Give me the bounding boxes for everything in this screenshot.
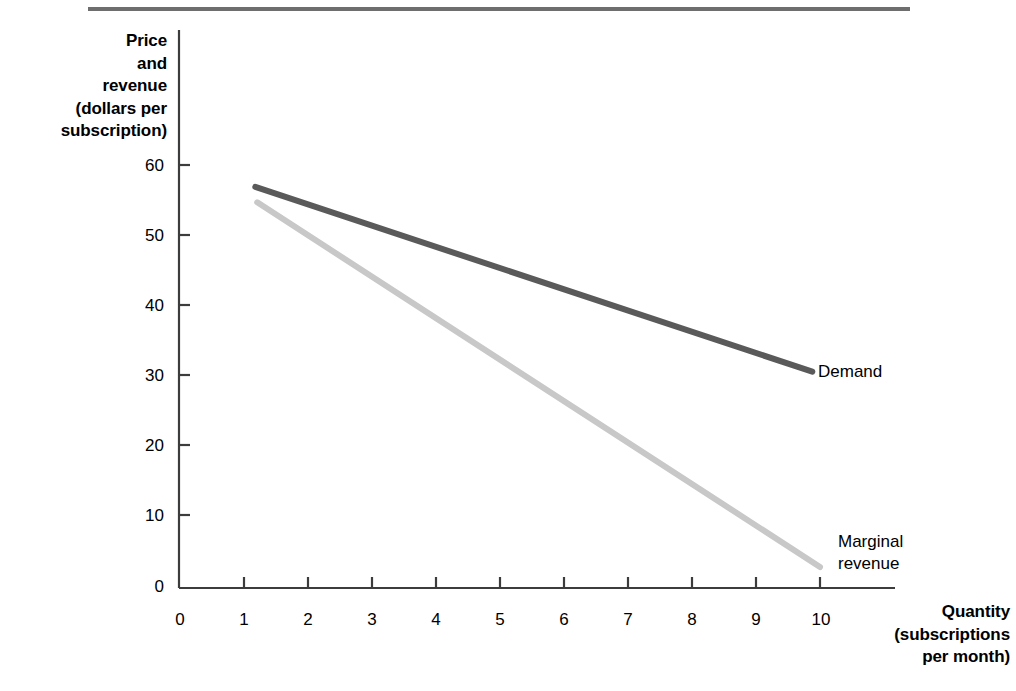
y-axis [179,30,190,588]
marginal-revenue-label-line-2: revenue [838,553,903,575]
demand-curve-label: Demand [818,361,882,383]
plot-area [0,0,1016,691]
demand-curve [255,187,812,372]
marginal-revenue-curve [257,202,820,567]
chart-figure: Price and revenue (dollars per subscript… [0,0,1016,691]
marginal-revenue-curve-label: Marginal revenue [838,531,903,575]
marginal-revenue-label-line-1: Marginal [838,531,903,553]
x-axis [179,577,895,588]
